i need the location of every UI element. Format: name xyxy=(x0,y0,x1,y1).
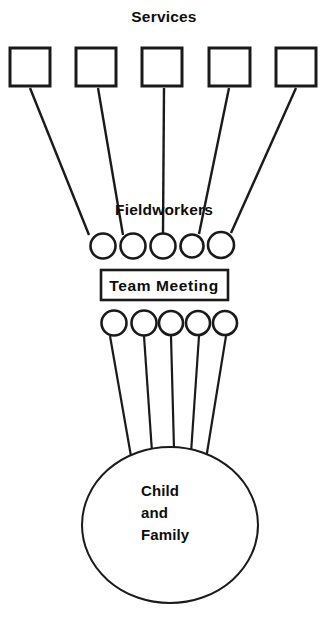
fieldworker-lower-1[interactable] xyxy=(102,311,127,336)
fieldworker-upper-4[interactable] xyxy=(181,235,204,258)
child-and-family-label-line-3: Family xyxy=(141,526,190,543)
fieldworker-upper-5[interactable] xyxy=(208,232,234,258)
fieldworkers-upper-row xyxy=(91,232,235,259)
child-and-family-circle[interactable] xyxy=(82,447,258,603)
link-family-4 xyxy=(191,336,199,453)
link-family-2 xyxy=(144,336,152,452)
service-box-3[interactable] xyxy=(142,48,182,86)
fieldworker-lower-4[interactable] xyxy=(186,311,210,335)
link-service-5 xyxy=(231,88,296,233)
service-box-1[interactable] xyxy=(10,48,50,86)
services-row xyxy=(10,48,316,86)
team-meeting-label: Team Meeting xyxy=(109,277,218,294)
service-box-4[interactable] xyxy=(209,48,250,86)
fieldworker-lower-2[interactable] xyxy=(132,311,157,336)
fieldworker-lower-5[interactable] xyxy=(213,311,237,335)
organization-diagram: Services Fieldworkers xyxy=(0,0,329,620)
link-family-1 xyxy=(110,336,132,462)
family-connector-group xyxy=(110,336,226,462)
services-heading: Services xyxy=(131,8,196,25)
link-family-3 xyxy=(171,336,174,449)
link-service-1 xyxy=(30,88,89,235)
fieldworker-lower-3[interactable] xyxy=(159,311,183,335)
fieldworkers-lower-row xyxy=(102,311,238,336)
fieldworkers-heading: Fieldworkers xyxy=(115,201,213,218)
link-family-5 xyxy=(206,336,226,459)
child-and-family-label-line-1: Child xyxy=(141,482,179,499)
fieldworker-upper-1[interactable] xyxy=(91,234,116,259)
child-and-family-node[interactable]: Child and Family xyxy=(82,447,258,603)
team-meeting-node[interactable]: Team Meeting xyxy=(101,270,228,300)
diagram-canvas: Services Fieldworkers xyxy=(0,0,329,620)
service-box-2[interactable] xyxy=(76,48,116,86)
fieldworker-upper-3[interactable] xyxy=(151,234,176,259)
child-and-family-label-line-2: and xyxy=(141,504,168,521)
fieldworker-upper-2[interactable] xyxy=(121,234,146,259)
service-box-5[interactable] xyxy=(276,48,316,86)
